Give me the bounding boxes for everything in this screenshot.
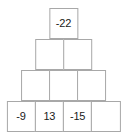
pyramid-cell[interactable]: 13 — [35, 101, 64, 132]
pyramid-cell[interactable]: -22 — [49, 8, 78, 39]
pyramid-cell[interactable] — [91, 101, 120, 132]
pyramid-row-1: -22 — [49, 9, 78, 39]
pyramid-row-4: -9 13 -15 — [6, 102, 120, 132]
pyramid-cell[interactable] — [49, 70, 78, 101]
pyramid-cell[interactable] — [63, 39, 92, 70]
pyramid-cell[interactable]: -9 — [6, 101, 35, 132]
pyramid-row-3 — [21, 71, 107, 101]
pyramid-cell[interactable]: -15 — [63, 101, 92, 132]
number-pyramid-figure: -22 -9 13 -15 — [0, 0, 127, 137]
pyramid-cell[interactable] — [77, 70, 106, 101]
pyramid-cell[interactable] — [35, 39, 64, 70]
pyramid-row-2 — [35, 40, 93, 70]
pyramid-cell[interactable] — [21, 70, 50, 101]
